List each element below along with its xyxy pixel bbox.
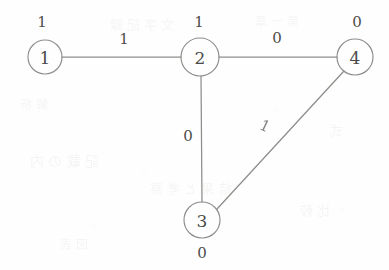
- nodes-group: 1 1 2 1 3 0 4 0: [28, 13, 373, 262]
- node-4-value: 0: [352, 13, 362, 31]
- node-3[interactable]: 3 0: [184, 202, 220, 262]
- edge-2-3-weight: 0: [183, 127, 193, 145]
- edge-2-4-weight: 0: [272, 29, 282, 47]
- edge-3-4-line: [217, 71, 344, 209]
- node-3-value: 0: [197, 244, 207, 262]
- node-3-label: 3: [197, 211, 208, 231]
- node-2-label: 2: [195, 48, 206, 68]
- diagram-canvas: 文 字 記 録第 一 章記 載 の 内結 果 と 考 察比 較図 表式解 析 1…: [0, 0, 389, 270]
- graph-svg: 1 0 0 1 1 1 2 1 3 0 4: [0, 0, 389, 270]
- node-2-value: 1: [194, 13, 204, 31]
- edge-2-3-line: [201, 76, 202, 202]
- edge-1-2-weight: 1: [119, 30, 129, 48]
- edge-3-4-weight: 1: [257, 116, 273, 136]
- node-4-label: 4: [350, 48, 361, 68]
- node-2[interactable]: 2 1: [181, 13, 219, 76]
- node-4[interactable]: 4 0: [337, 13, 373, 75]
- node-1-value: 1: [37, 13, 47, 31]
- node-1[interactable]: 1 1: [28, 13, 62, 74]
- edges-group: [62, 57, 344, 209]
- node-1-label: 1: [40, 48, 51, 68]
